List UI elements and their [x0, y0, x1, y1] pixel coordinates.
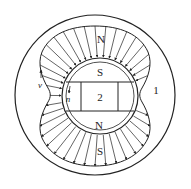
- field-line-arrow: [63, 130, 80, 160]
- field-line-arrow: [54, 37, 76, 65]
- field-line-arrow: [54, 127, 75, 154]
- field-line-arrow: [42, 76, 63, 83]
- field-line-arrow: [42, 108, 63, 115]
- label-rotor-core: 2: [97, 91, 103, 103]
- field-line-arrow: [133, 65, 150, 75]
- stator-outer-circle: [15, 15, 175, 175]
- field-lines: [40, 26, 150, 166]
- field-line-arrow: [46, 45, 72, 69]
- field-line-arrow: [40, 113, 65, 126]
- label-rotor-pole-bottom: N: [95, 119, 103, 131]
- field-line-arrow: [109, 28, 116, 58]
- field-line-arrow: [103, 135, 106, 165]
- field-line-arrow: [130, 54, 149, 70]
- field-line-arrow: [41, 118, 67, 136]
- field-line-arrow: [126, 125, 144, 146]
- field-diagram: N S 2 N S 1 v n: [0, 0, 191, 189]
- field-line-arrow: [63, 32, 80, 62]
- field-line-arrow: [47, 85, 62, 88]
- field-line-arrow: [84, 27, 91, 58]
- field-line-arrow: [109, 134, 116, 163]
- field-line-arrow: [84, 134, 91, 165]
- label-velocity: v: [38, 80, 42, 90]
- field-line-arrow: [125, 45, 143, 67]
- field-line-arrow: [47, 123, 72, 146]
- label-stator: 1: [153, 84, 159, 96]
- field-line-arrow: [133, 116, 150, 126]
- label-stator-pole-top: N: [97, 33, 105, 45]
- field-line-arrow: [41, 54, 68, 73]
- label-normal: n: [66, 94, 71, 104]
- field-boundary: [40, 26, 150, 166]
- field-line-arrow: [46, 103, 61, 106]
- normal-arrow: [69, 86, 70, 93]
- label-rotor-pole-top: S: [97, 66, 103, 78]
- field-line-arrow: [74, 132, 86, 163]
- field-line-arrow: [74, 28, 86, 59]
- label-stator-pole-bottom: S: [97, 145, 103, 157]
